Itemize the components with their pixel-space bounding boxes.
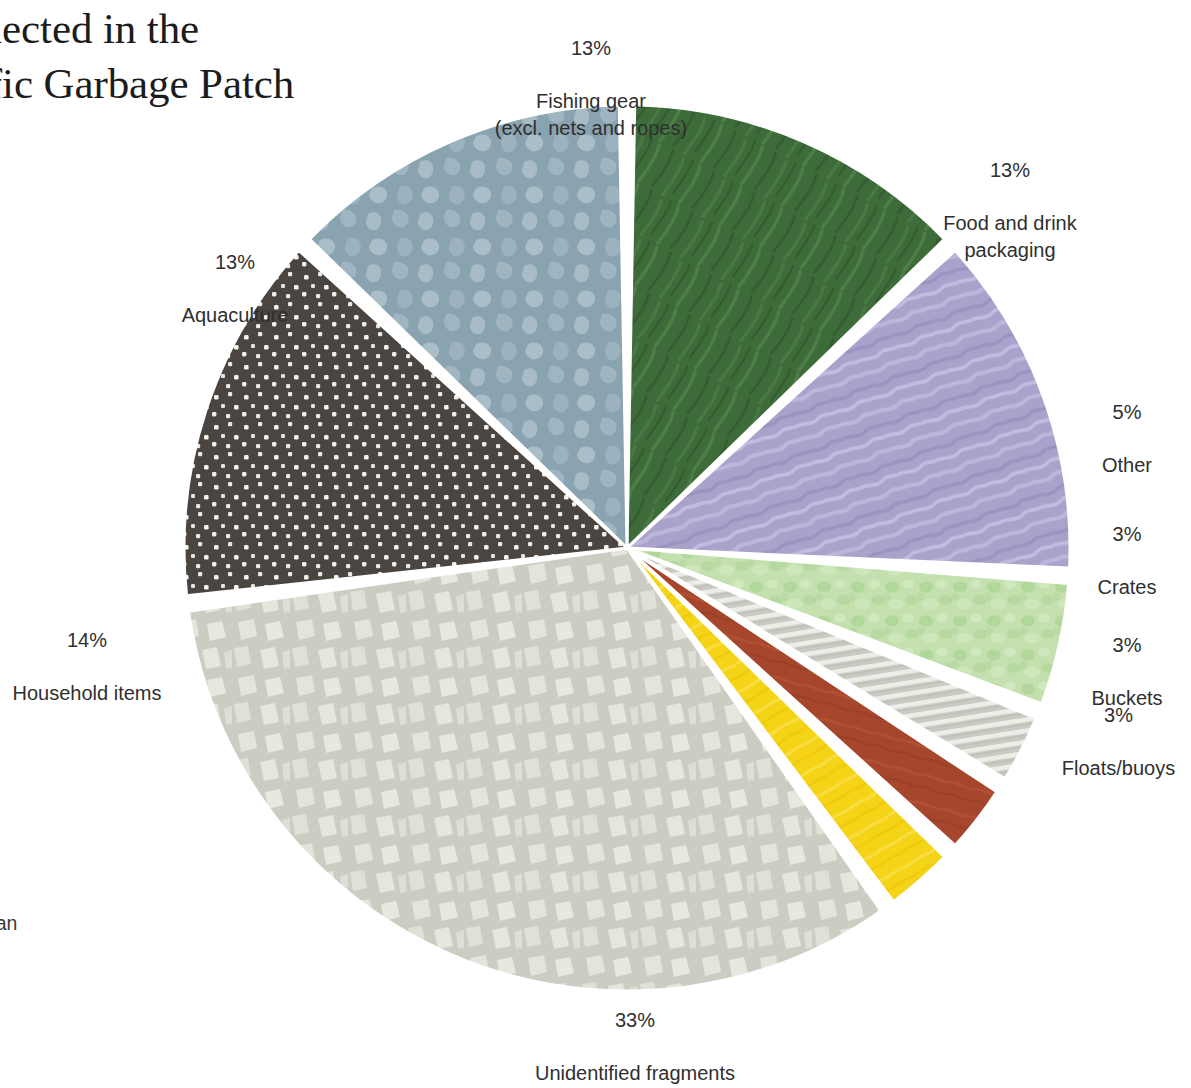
slice-percent-unidentified-fragments: 33%	[455, 1007, 815, 1034]
slice-percent-other: 5%	[1067, 399, 1187, 426]
slice-percent-crates: 3%	[1067, 521, 1187, 548]
slice-name-fishing-gear: Fishing gear (excl. nets and ropes)	[451, 88, 731, 142]
slice-percent-food-and-drink-packaging: 13%	[885, 157, 1135, 184]
slice-label-household-items: 14% Household items	[0, 600, 182, 734]
slice-label-unidentified-fragments: 33% Unidentified fragments	[455, 980, 815, 1088]
slice-name-aquaculture: Aquaculture	[120, 302, 350, 329]
slice-label-other: 5% Other	[1067, 372, 1187, 506]
slice-name-food-and-drink-packaging: Food and drink packaging	[885, 210, 1135, 264]
chart-caption: s the different ore than 6,000 lastic – …	[0, 845, 188, 1003]
slice-percent-fishing-gear: 13%	[451, 35, 731, 62]
slice-name-crates: Crates	[1067, 574, 1187, 601]
slice-name-unidentified-fragments: Unidentified fragments	[455, 1060, 815, 1087]
slice-percent-aquaculture: 13%	[120, 249, 350, 276]
slice-name-floats-buoys: Floats/buoys	[1046, 755, 1191, 782]
slice-label-fishing-gear: 13% Fishing gear (excl. nets and ropes)	[451, 8, 731, 169]
slice-label-food-and-drink-packaging: 13% Food and drink packaging	[885, 130, 1135, 291]
slice-name-other: Other	[1067, 452, 1187, 479]
slice-percent-household-items: 14%	[0, 627, 182, 654]
slice-label-floats-buoys: 3% Floats/buoys	[1046, 675, 1191, 809]
slice-percent-floats-buoys: 3%	[1046, 702, 1191, 729]
slice-name-household-items: Household items	[0, 680, 182, 707]
slice-label-aquaculture: 13% Aquaculture	[120, 222, 350, 356]
slice-percent-buckets: 3%	[1067, 632, 1187, 659]
